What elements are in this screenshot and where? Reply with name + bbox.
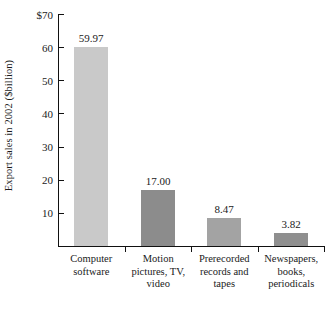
bar: 3.82 [274, 233, 308, 246]
y-tick-mark [58, 147, 64, 148]
bar-chart: Export sales in 2002 ($billion) $7060504… [0, 0, 328, 310]
x-category-label-line: Computer [54, 253, 129, 266]
x-category-label: Motionpictures, TV,video [121, 253, 196, 291]
x-category-label-line: pictures, TV, [121, 266, 196, 279]
plot-area: $70605040302010 59.9717.008.473.82 [58, 14, 324, 247]
y-tick-mark [58, 113, 64, 114]
y-tick-mark [58, 14, 64, 15]
x-tick-mark [324, 246, 325, 252]
x-category-label-line: records and [187, 266, 262, 279]
y-tick-label: 10 [42, 207, 53, 219]
y-tick-mark [58, 180, 64, 181]
x-category-label: Prerecordedrecords andtapes [187, 253, 262, 291]
y-tick-label: 30 [42, 141, 53, 153]
bar: 59.97 [74, 47, 108, 246]
y-tick-label: 60 [42, 42, 53, 54]
x-category-label-line: software [54, 266, 129, 279]
y-tick-mark [58, 80, 64, 81]
bar-value-label: 59.97 [79, 32, 104, 44]
y-tick-mark [58, 47, 64, 48]
y-axis-title-text: Export sales in 2002 ($billion) [4, 59, 15, 190]
x-category-label-line: Prerecorded [187, 253, 262, 266]
x-tick-mark [191, 246, 192, 252]
x-tick-mark [258, 246, 259, 252]
y-tick-label: 40 [42, 108, 53, 120]
x-category-label-line: Newspapers, [254, 253, 328, 266]
y-tick-label: 20 [42, 174, 53, 186]
x-category-label-line: Motion [121, 253, 196, 266]
y-tick-mark [58, 213, 64, 214]
y-tick-label: 50 [42, 75, 53, 87]
x-category-label: Newspapers,books,periodicals [254, 253, 328, 291]
y-tick-label: $70 [37, 9, 54, 21]
bar-value-label: 17.00 [146, 175, 171, 187]
bar-value-label: 8.47 [214, 203, 233, 215]
x-category-label-line: tapes [187, 278, 262, 291]
bar: 17.00 [141, 190, 175, 246]
x-category-label-line: books, [254, 266, 328, 279]
x-category-label-line: periodicals [254, 278, 328, 291]
bar: 8.47 [207, 218, 241, 246]
x-category-label-line: video [121, 278, 196, 291]
x-category-label: Computersoftware [54, 253, 129, 278]
bar-value-label: 3.82 [281, 218, 300, 230]
x-tick-mark [125, 246, 126, 252]
y-axis-title: Export sales in 2002 ($billion) [0, 0, 18, 250]
